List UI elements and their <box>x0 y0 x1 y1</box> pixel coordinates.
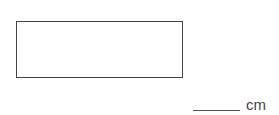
rectangle-figure <box>16 21 183 78</box>
unit-label: cm <box>246 97 266 112</box>
answer-blank[interactable] <box>193 110 240 111</box>
answer-area: cm <box>193 94 266 114</box>
